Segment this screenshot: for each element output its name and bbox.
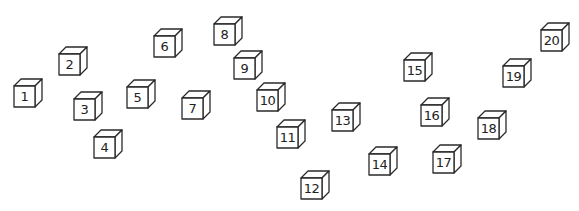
cube-number-label: 14 — [369, 154, 390, 175]
cube-number-label: 3 — [74, 99, 95, 120]
cube-19: 19 — [502, 58, 532, 87]
cube-number-label: 16 — [421, 105, 442, 126]
cube-number-label: 13 — [332, 110, 353, 131]
cube-2: 2 — [58, 46, 88, 75]
cube-number-label: 12 — [301, 178, 322, 199]
cube-number-label: 5 — [127, 87, 148, 108]
numbered-cubes-scene: 1234567891011121314151617181920 — [0, 0, 579, 211]
cube-number-label: 9 — [234, 58, 255, 79]
cube-number-label: 17 — [433, 152, 454, 173]
cube-number-label: 1 — [14, 86, 35, 107]
cube-number-label: 2 — [59, 54, 80, 75]
cube-number-label: 4 — [94, 137, 115, 158]
cube-4: 4 — [93, 129, 123, 158]
cube-1: 1 — [13, 78, 43, 107]
cube-14: 14 — [368, 146, 398, 175]
cube-number-label: 10 — [257, 90, 278, 111]
cube-20: 20 — [540, 22, 570, 51]
cube-number-label: 18 — [478, 118, 499, 139]
cube-number-label: 8 — [214, 24, 235, 45]
cube-5: 5 — [126, 79, 156, 108]
cube-18: 18 — [477, 110, 507, 139]
cube-number-label: 20 — [541, 30, 562, 51]
cube-11: 11 — [276, 119, 306, 148]
cube-6: 6 — [153, 28, 183, 57]
cube-number-label: 19 — [503, 66, 524, 87]
cube-number-label: 11 — [277, 127, 298, 148]
cube-10: 10 — [256, 82, 286, 111]
cube-12: 12 — [300, 170, 330, 199]
cube-17: 17 — [432, 144, 462, 173]
cube-7: 7 — [181, 90, 211, 119]
cube-9: 9 — [233, 50, 263, 79]
cube-number-label: 15 — [404, 60, 425, 81]
cube-13: 13 — [331, 102, 361, 131]
cube-8: 8 — [213, 16, 243, 45]
cube-number-label: 6 — [154, 36, 175, 57]
cube-number-label: 7 — [182, 98, 203, 119]
cube-3: 3 — [73, 91, 103, 120]
cube-16: 16 — [420, 97, 450, 126]
cube-15: 15 — [403, 52, 433, 81]
